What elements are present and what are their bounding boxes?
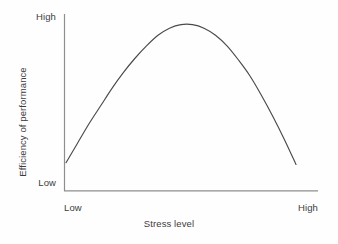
performance-curve [66, 24, 296, 164]
x-axis-tick-high: High [298, 202, 318, 213]
y-axis-title-wrapper: Efficiency of performance [16, 0, 28, 244]
plot-area [0, 0, 338, 244]
x-axis-tick-low: Low [64, 202, 82, 213]
y-axis-tick-low: Low [38, 177, 56, 188]
x-axis-title: Stress level [0, 218, 338, 229]
y-axis-tick-high: High [36, 11, 56, 22]
y-axis-title: Efficiency of performance [17, 67, 28, 177]
chart-figure: High Low Low High Stress level Efficienc… [0, 0, 338, 244]
